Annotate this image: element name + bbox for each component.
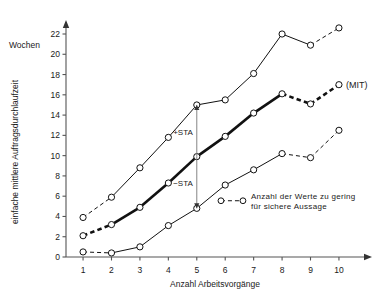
legend-marker-start (218, 198, 224, 204)
data-point (165, 222, 171, 228)
data-point (251, 70, 257, 76)
y-tick-label: 6 (55, 191, 60, 201)
series-segment (282, 154, 310, 158)
series-segment (140, 183, 168, 207)
series-segment (140, 137, 168, 167)
data-point (279, 31, 285, 37)
series-segment (83, 252, 111, 253)
data-point (80, 249, 86, 255)
data-point (307, 42, 313, 48)
data-point (80, 214, 86, 220)
x-tick-label: 5 (194, 265, 199, 275)
y-axis-arrow (63, 20, 69, 28)
annotation-label: +STA (173, 128, 193, 137)
series-segment (111, 247, 139, 253)
series-label-mit: (MIT) (346, 80, 368, 90)
data-point (222, 133, 228, 139)
series-segment (83, 197, 111, 217)
chart-container: 024681012141618202212345678910Anzahl Arb… (0, 0, 381, 296)
series-mit (80, 82, 342, 239)
y-tick-label: 20 (51, 49, 61, 59)
data-point (137, 244, 143, 250)
x-axis-arrow (364, 254, 372, 260)
series-segment (254, 154, 282, 170)
data-point (108, 194, 114, 200)
data-point (137, 165, 143, 171)
x-tick-label: 6 (223, 265, 228, 275)
series-segment (254, 34, 282, 74)
annotation-minus-sta: −STA (173, 157, 199, 209)
x-tick-label: 2 (109, 265, 114, 275)
x-tick-label: 8 (280, 265, 285, 275)
legend-line-2: für sichere Aussage (251, 202, 327, 211)
x-tick-label: 7 (251, 265, 256, 275)
data-point (137, 204, 143, 210)
legend-line-1: Anzahl der Werte zu gering (251, 192, 356, 201)
series-segment (111, 168, 139, 197)
legend: Anzahl der Werte zu geringfür sichere Au… (218, 192, 355, 211)
x-axis-title: Anzahl Arbeitsvorgänge (170, 279, 260, 289)
series-segment (311, 28, 339, 45)
series-segment (225, 74, 253, 100)
series-segment (111, 207, 139, 224)
y-tick-label: 2 (55, 232, 60, 242)
y-tick-label: 0 (55, 252, 60, 262)
data-point (165, 180, 171, 186)
y-tick-label: 16 (51, 90, 61, 100)
y-tick-label: 8 (55, 171, 60, 181)
series-segment (225, 170, 253, 185)
x-tick-label: 4 (166, 265, 171, 275)
x-tick-label: 3 (138, 265, 143, 275)
series-segment (311, 130, 339, 157)
series-segment (168, 208, 196, 225)
chart-canvas: 024681012141618202212345678910Anzahl Arb… (0, 0, 381, 296)
series-segment (83, 225, 111, 236)
y-tick-label: 22 (51, 29, 61, 39)
series-segment (254, 94, 282, 113)
data-point (307, 155, 313, 161)
data-point (222, 97, 228, 103)
data-point (336, 25, 342, 31)
data-point (279, 151, 285, 157)
series-segment (197, 100, 225, 105)
x-tick-label: 9 (308, 265, 313, 275)
x-tick-label: 1 (81, 265, 86, 275)
series-segment (282, 34, 310, 45)
x-tick-label: 10 (334, 265, 344, 275)
y-tick-label: 4 (55, 211, 60, 221)
series-segment (311, 85, 339, 104)
data-point (108, 221, 114, 227)
y-tick-label: 10 (51, 151, 61, 161)
data-point (108, 250, 114, 256)
data-point (279, 91, 285, 97)
y-unit-label: Wochen (9, 40, 40, 50)
data-point (251, 110, 257, 116)
series-segment (197, 185, 225, 208)
series-segment (197, 136, 225, 156)
series-segment (140, 226, 168, 247)
data-point (336, 127, 342, 133)
annotation-plus-sta: +STA (173, 105, 199, 157)
y-tick-label: 12 (51, 130, 61, 140)
data-point (222, 182, 228, 188)
series-segment (225, 113, 253, 136)
series-segment (282, 94, 310, 104)
legend-marker-end (240, 198, 246, 204)
data-point (336, 82, 342, 88)
data-point (165, 134, 171, 140)
data-point (307, 101, 313, 107)
y-tick-label: 18 (51, 70, 61, 80)
y-tick-label: 14 (51, 110, 61, 120)
annotation-label: −STA (173, 179, 193, 188)
y-axis-title: einfache mittlere Auftragsdurchlaufzeit (10, 79, 20, 224)
data-point (251, 167, 257, 173)
data-point (80, 233, 86, 239)
